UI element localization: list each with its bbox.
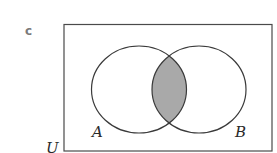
venn-diagram-figure: c A B U <box>0 0 277 153</box>
part-label: c <box>25 24 32 38</box>
set-a-label: A <box>92 125 103 140</box>
universal-set-label: U <box>46 141 59 153</box>
set-b-label: B <box>235 125 246 140</box>
